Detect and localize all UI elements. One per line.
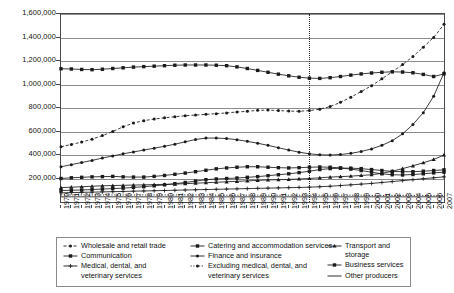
x-tick-mark xyxy=(329,205,330,208)
x-tick-mark xyxy=(308,205,309,208)
y-tick-label: 800,000 xyxy=(4,103,56,111)
x-tick-mark xyxy=(371,205,372,208)
x-tick-mark xyxy=(443,205,444,208)
x-tick-mark xyxy=(350,205,351,208)
legend-item-label: Catering and accommodation services xyxy=(208,241,332,250)
plot-area xyxy=(60,13,445,203)
x-tick-label: 2007 xyxy=(446,193,454,209)
x-axis: 1970197119721973197419751976197719781979… xyxy=(60,205,445,233)
legend-item[interactable]: Transport and storage xyxy=(327,241,410,259)
x-tick-mark xyxy=(91,205,92,208)
legend-item-label: Other producers xyxy=(345,271,398,280)
x-tick-mark xyxy=(184,205,185,208)
y-tick-label: 600,000 xyxy=(4,127,56,135)
legend-item-label: Finance and insurance xyxy=(208,251,282,260)
marker-square-solid-icon xyxy=(327,260,342,269)
marker-square-solid-icon xyxy=(190,241,205,250)
line-chart: 200,000400,000600,000800,0001,000,0001,2… xyxy=(0,0,451,232)
x-tick-mark xyxy=(267,205,268,208)
series-business-services xyxy=(59,63,445,80)
x-tick-mark xyxy=(412,205,413,208)
x-tick-mark xyxy=(246,205,247,208)
legend-column-3: Transport and storageBusiness servicesOt… xyxy=(327,241,410,281)
x-tick-mark xyxy=(298,205,299,208)
x-tick-mark xyxy=(226,205,227,208)
x-tick-mark xyxy=(422,205,423,208)
x-tick-mark xyxy=(174,205,175,208)
x-tick-mark xyxy=(360,205,361,208)
legend: Wholesale and retail tradeCommunicationM… xyxy=(56,237,411,287)
series-finance-and-insurance xyxy=(60,71,446,168)
x-tick-mark xyxy=(391,205,392,208)
marker-dot-solid-icon xyxy=(190,251,205,260)
legend-item[interactable]: Communication xyxy=(63,251,166,260)
marker-plus-solid-icon xyxy=(63,261,78,270)
x-tick-mark xyxy=(101,205,102,208)
marker-none-solid-icon xyxy=(327,271,342,280)
x-tick-mark xyxy=(81,205,82,208)
series-catering-and-accommodation-services xyxy=(59,165,445,180)
x-tick-mark xyxy=(339,205,340,208)
y-tick-label: 1,400,000 xyxy=(4,33,56,41)
x-tick-mark xyxy=(143,205,144,208)
x-tick-mark xyxy=(132,205,133,208)
x-tick-mark xyxy=(112,205,113,208)
legend-item-label: Business services xyxy=(345,260,403,269)
legend-column-2: Catering and accommodation servicesFinan… xyxy=(190,241,332,281)
legend-item[interactable]: Excluding medical, dental, and veterinar… xyxy=(190,261,332,279)
x-tick-mark xyxy=(257,205,258,208)
legend-item-label: Excluding medical, dental, and veterinar… xyxy=(208,261,307,279)
y-tick-label: 1,200,000 xyxy=(4,56,56,64)
legend-item[interactable]: Medical, dental, and veterinary services xyxy=(63,261,166,279)
y-tick-label: 200,000 xyxy=(4,174,56,182)
legend-item[interactable]: Business services xyxy=(327,260,410,269)
x-tick-mark xyxy=(381,205,382,208)
x-tick-mark xyxy=(433,205,434,208)
y-tick-label: 1,600,000 xyxy=(4,9,56,17)
x-tick-mark xyxy=(215,205,216,208)
series-wholesale-and-retail-trade xyxy=(60,23,446,148)
x-tick-mark xyxy=(60,205,61,208)
x-tick-mark xyxy=(402,205,403,208)
legend-item[interactable]: Catering and accommodation services xyxy=(190,241,332,250)
series-lines xyxy=(61,14,446,204)
marker-square-solid-icon xyxy=(63,251,78,260)
x-tick-mark xyxy=(164,205,165,208)
x-tick-mark xyxy=(205,205,206,208)
legend-item[interactable]: Wholesale and retail trade xyxy=(63,241,166,250)
legend-item[interactable]: Finance and insurance xyxy=(190,251,332,260)
x-tick-mark xyxy=(70,205,71,208)
x-tick-mark xyxy=(236,205,237,208)
x-tick-mark xyxy=(122,205,123,208)
legend-item[interactable]: Other producers xyxy=(327,271,410,280)
x-tick-mark xyxy=(319,205,320,208)
legend-item-label: Medical, dental, and veterinary services xyxy=(81,261,146,279)
x-tick-mark xyxy=(195,205,196,208)
x-tick-mark xyxy=(153,205,154,208)
x-tick-mark xyxy=(277,205,278,208)
marker-none-dotted-icon xyxy=(190,261,205,270)
y-tick-label: 1,000,000 xyxy=(4,80,56,88)
marker-triangle-solid-icon xyxy=(327,241,342,250)
legend-item-label: Wholesale and retail trade xyxy=(81,241,166,250)
legend-column-1: Wholesale and retail tradeCommunicationM… xyxy=(63,241,166,281)
y-tick-label: 400,000 xyxy=(4,150,56,158)
marker-dot-dashed-icon xyxy=(63,241,78,250)
legend-item-label: Communication xyxy=(81,251,132,260)
x-tick-mark xyxy=(288,205,289,208)
legend-item-label: Transport and storage xyxy=(345,241,410,259)
y-axis: 200,000400,000600,000800,0001,000,0001,2… xyxy=(0,0,56,232)
